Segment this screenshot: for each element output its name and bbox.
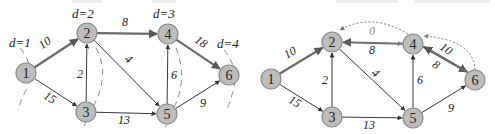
- right-graph: 101528413610890123456: [261, 22, 485, 132]
- graph-node-5: 5: [157, 104, 177, 124]
- graph-node-6: 6: [465, 70, 485, 90]
- left-graph: 1015284136189123456d=1d=2d=3d=4: [9, 6, 239, 130]
- graph-node-1: 1: [16, 63, 36, 83]
- graph-node-5: 5: [403, 108, 423, 128]
- edge-weight-label: 18: [192, 33, 210, 51]
- distance-label: d=4: [217, 36, 239, 51]
- node-label: 6: [226, 68, 233, 83]
- edge-weight-label: 4: [369, 66, 383, 81]
- edge-2-5: [339, 49, 405, 111]
- edge-3-2: [86, 44, 87, 102]
- distance-label: d=3: [153, 6, 175, 21]
- edge-weight-label: 4: [122, 52, 136, 67]
- edge-weight-label: 0: [369, 24, 375, 38]
- node-label: 2: [84, 26, 91, 41]
- edge-weight-label: 8: [122, 15, 128, 29]
- graph-node-6: 6: [219, 65, 239, 85]
- node-label: 5: [164, 107, 171, 122]
- edge-weight-label: 15: [286, 92, 303, 110]
- edge-weight-label: 13: [118, 113, 130, 127]
- edge-weight-label: 15: [41, 88, 58, 106]
- graph-node-2: 2: [322, 32, 342, 52]
- edge-5-4: [167, 45, 168, 104]
- graph-node-4: 4: [158, 24, 178, 44]
- edge-weight-label: 6: [417, 73, 423, 87]
- node-label: 1: [23, 66, 30, 81]
- edge-weight-label: 8: [369, 43, 375, 57]
- edge-weight-label: 9: [448, 101, 454, 115]
- edge-weight-label: 8: [430, 57, 443, 72]
- edge-weight-label: 13: [363, 118, 375, 132]
- node-label: 5: [410, 111, 417, 126]
- node-label: 4: [165, 27, 172, 42]
- distance-label: d=2: [72, 6, 94, 21]
- distance-label: d=1: [9, 35, 31, 50]
- edge-5-6: [175, 81, 219, 109]
- edge-2-4: [97, 33, 157, 34]
- node-label: 3: [83, 105, 90, 120]
- edge-weight-label: 9: [200, 96, 206, 110]
- graph-node-3: 3: [76, 102, 96, 122]
- edge-weight-label: 2: [322, 73, 328, 87]
- node-label: 4: [410, 37, 417, 52]
- graph-node-2: 2: [77, 23, 97, 43]
- graph-node-3: 3: [322, 107, 342, 127]
- node-label: 3: [329, 110, 336, 125]
- edge-weight-label: 2: [77, 67, 83, 81]
- graph-figure: 1015284136189123456d=1d=2d=3d=4 10152841…: [0, 0, 495, 134]
- graph-node-4: 4: [403, 34, 423, 54]
- node-label: 2: [329, 35, 336, 50]
- node-label: 1: [268, 72, 275, 87]
- edge-5-6: [422, 86, 466, 113]
- edge-weight-label: 6: [171, 68, 177, 82]
- edge-2-5: [94, 40, 159, 106]
- edge-weight-label: 10: [281, 43, 298, 61]
- graph-node-1: 1: [261, 69, 281, 89]
- edge-weight-label: 10: [36, 34, 54, 52]
- node-label: 6: [472, 73, 479, 88]
